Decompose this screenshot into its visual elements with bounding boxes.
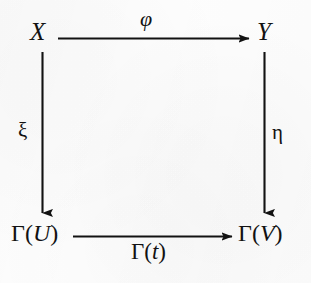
gamma-glyph: Γ <box>131 239 144 264</box>
close-paren-glyph: ) <box>158 239 166 264</box>
close-paren-glyph: ) <box>50 220 58 246</box>
arrow-label-gamma-t: Γ(t) <box>131 240 166 263</box>
close-paren-glyph: ) <box>275 220 283 246</box>
arrow-label-phi: φ <box>140 8 152 30</box>
node-bottom-left: Γ(U) <box>11 221 58 245</box>
open-paren-glyph: ( <box>144 239 152 264</box>
arrow-label-eta: η <box>272 122 283 143</box>
gamma-glyph: Γ <box>11 220 25 246</box>
open-paren-glyph: ( <box>25 220 33 246</box>
node-bottom-right: Γ(V) <box>238 221 283 245</box>
node-top-right: Y <box>257 19 271 44</box>
v-glyph: V <box>260 220 275 246</box>
diagram-canvas: X Y Γ(U) Γ(V) φ ξ η Γ(t) <box>0 0 311 283</box>
gamma-glyph: Γ <box>238 220 252 246</box>
arrow-label-xi: ξ <box>18 120 27 141</box>
open-paren-glyph: ( <box>252 220 260 246</box>
u-glyph: U <box>33 220 50 246</box>
node-top-left: X <box>30 19 45 44</box>
